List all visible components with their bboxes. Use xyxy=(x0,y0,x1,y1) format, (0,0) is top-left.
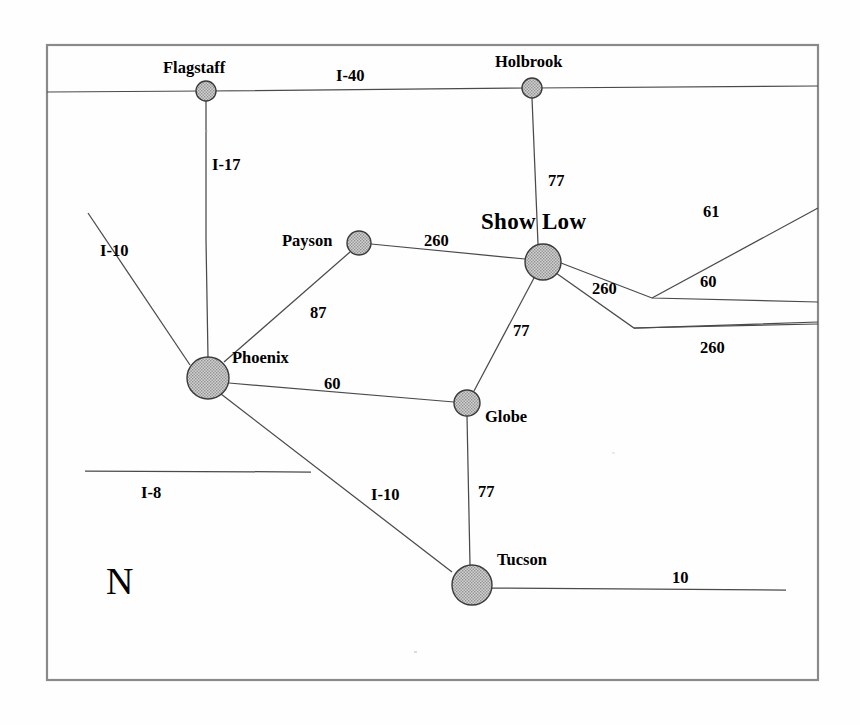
route-label-i10-tucson-east: 10 xyxy=(672,570,689,587)
city-node-flagstaff[interactable] xyxy=(196,81,216,101)
route-label-i10-northwest: I-10 xyxy=(100,243,128,260)
city-marker-globe xyxy=(454,390,480,416)
route-label-sr77-holbrook: 77 xyxy=(548,173,565,190)
route-label-us60-east: 60 xyxy=(700,274,717,291)
city-node-tucson[interactable] xyxy=(452,565,492,605)
city-label-tucson: Tucson xyxy=(497,552,547,569)
route-label-us87: 87 xyxy=(310,305,327,322)
road-i10-southeast[interactable] xyxy=(221,394,452,572)
city-marker-payson xyxy=(347,231,371,255)
city-marker-showlow xyxy=(525,244,561,280)
route-label-i10-southeast: I-10 xyxy=(371,487,399,504)
scan-speck xyxy=(414,651,417,653)
route-label-i40: I-40 xyxy=(336,68,364,85)
city-node-payson[interactable] xyxy=(347,231,371,255)
route-label-sr77-tucson: 77 xyxy=(478,484,495,501)
city-label-holbrook: Holbrook xyxy=(495,54,563,71)
map-vector-layer xyxy=(0,0,860,725)
road-i40[interactable] xyxy=(47,86,818,92)
route-label-i17: I-17 xyxy=(212,157,240,174)
road-sr61[interactable] xyxy=(652,208,818,298)
road-us87[interactable] xyxy=(224,252,350,362)
road-us60-phoenix[interactable] xyxy=(229,383,454,402)
compass-north-label: N xyxy=(106,562,133,600)
city-label-showlow: Show Low xyxy=(481,210,586,233)
route-label-i8: I-8 xyxy=(141,485,161,502)
city-node-showlow[interactable] xyxy=(525,244,561,280)
city-node-holbrook[interactable] xyxy=(522,78,542,98)
road-i10-northwest[interactable] xyxy=(88,213,190,365)
map-canvas: I-40I-17I-10I-10872607777607710I-8616026… xyxy=(0,0,860,725)
city-node-phoenix[interactable] xyxy=(187,357,229,399)
road-sr77-tucson[interactable] xyxy=(467,416,470,565)
city-nodes-layer xyxy=(187,78,561,605)
road-i8[interactable] xyxy=(85,471,311,472)
route-label-sr61: 61 xyxy=(703,204,720,221)
route-label-sr260-showlow: 260 xyxy=(592,281,617,298)
city-marker-holbrook xyxy=(522,78,542,98)
route-label-sr260-east: 260 xyxy=(700,340,725,357)
road-i17[interactable] xyxy=(206,101,208,357)
city-marker-phoenix xyxy=(187,357,229,399)
city-label-payson: Payson xyxy=(282,233,332,250)
city-label-phoenix: Phoenix xyxy=(232,350,289,367)
road-i10-tucson-east[interactable] xyxy=(492,588,786,590)
map-frame-border xyxy=(47,45,818,680)
city-label-flagstaff: Flagstaff xyxy=(163,60,225,77)
scan-speck xyxy=(205,130,208,132)
city-marker-tucson xyxy=(452,565,492,605)
route-label-sr77-globe: 77 xyxy=(513,323,530,340)
city-label-globe: Globe xyxy=(485,409,527,426)
scan-speck xyxy=(612,452,615,454)
city-marker-flagstaff xyxy=(196,81,216,101)
route-label-sr260-payson: 260 xyxy=(424,233,449,250)
route-label-us60-phoenix: 60 xyxy=(324,376,341,393)
city-node-globe[interactable] xyxy=(454,390,480,416)
